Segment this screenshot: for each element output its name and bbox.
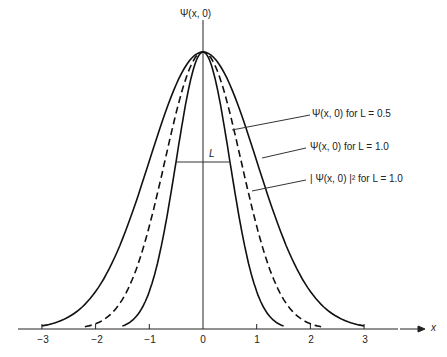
tick-label: 2 [308,334,314,345]
tick-label: −3 [37,334,48,345]
x-axis-arrowhead [418,326,425,332]
x-axis-label: x [431,322,436,333]
legend-l10: Ψ(x, 0) for L = 1.0 [310,141,389,152]
leader-line-sq [252,180,306,191]
legend-sq: | Ψ(x, 0) |² for L = 1.0 [310,173,403,184]
tick-label: 3 [362,334,368,345]
leader-line-l10 [262,148,306,158]
tick-label: 1 [254,334,260,345]
tick-label: −1 [144,334,155,345]
y-axis-label: Ψ(x, 0) [180,8,211,19]
width-marker-label: L [209,148,215,159]
tick-label: 0 [200,334,206,345]
tick-label: −2 [91,334,102,345]
legend-l05: Ψ(x, 0) for L = 0.5 [312,108,391,119]
